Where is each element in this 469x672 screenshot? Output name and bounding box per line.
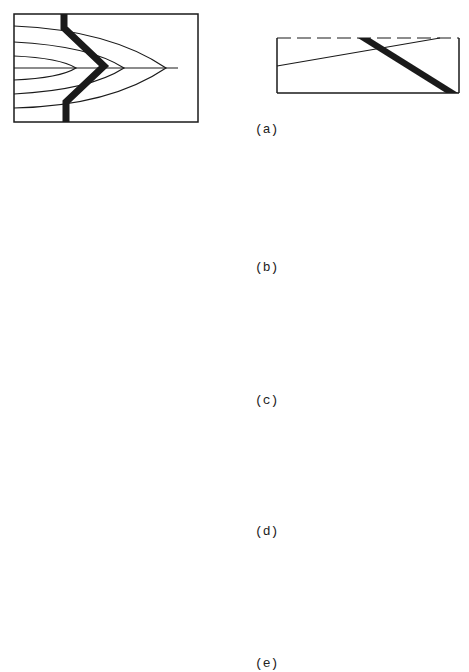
figure-canvas xyxy=(0,0,469,672)
panel-c-label: (c) xyxy=(255,393,278,408)
panel-a-section xyxy=(277,38,459,93)
panel-a-map xyxy=(14,14,198,122)
panel-e-label: (e) xyxy=(255,656,278,671)
panel-a-label: (a) xyxy=(255,122,278,137)
panel-d-label: (d) xyxy=(255,524,278,539)
panel-b-label: (b) xyxy=(255,260,278,275)
